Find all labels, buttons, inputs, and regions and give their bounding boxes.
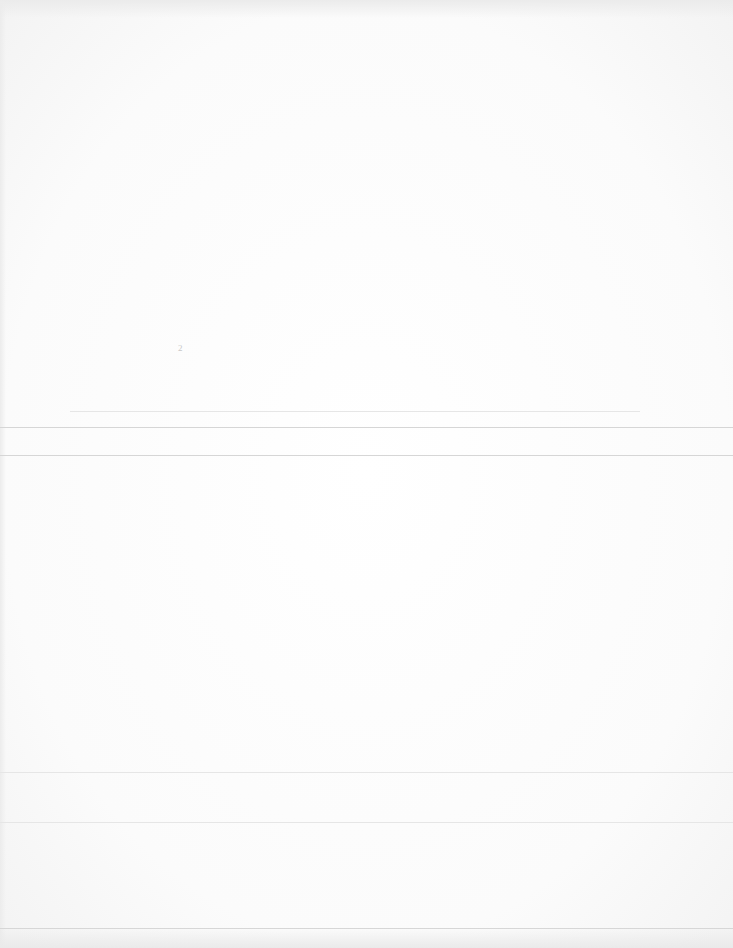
- horizontal-rule: [0, 455, 733, 456]
- scan-left-edge: [0, 0, 6, 948]
- horizontal-rule: [0, 822, 733, 823]
- scan-bottom-edge: [0, 928, 733, 948]
- stray-mark: 2: [178, 343, 183, 353]
- horizontal-rule: [70, 411, 640, 412]
- scan-top-edge: [0, 0, 733, 18]
- horizontal-rule: [0, 427, 733, 428]
- horizontal-rule: [0, 772, 733, 773]
- document-page: 2: [0, 0, 733, 948]
